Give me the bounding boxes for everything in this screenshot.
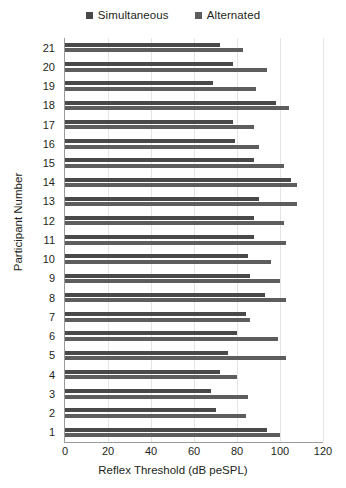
plot-area — [65, 38, 323, 442]
y-axis-tick-label: 4 — [0, 365, 61, 384]
legend-swatch-icon — [195, 12, 202, 19]
bar-row — [65, 96, 323, 115]
bar-alternated — [65, 68, 267, 72]
y-axis-tick-label: 20 — [0, 57, 61, 76]
y-axis-tick-label: 15 — [0, 153, 61, 172]
y-axis-tick-label: 16 — [0, 134, 61, 153]
bar-simultaneous — [65, 370, 220, 374]
legend-item-simultaneous: Simultaneous — [86, 9, 169, 21]
bar-row — [65, 38, 323, 57]
bar-row — [65, 423, 323, 442]
y-axis-tick-label: 13 — [0, 192, 61, 211]
y-axis-tick-label: 5 — [0, 346, 61, 365]
bar-row — [65, 134, 323, 153]
bar-alternated — [65, 202, 297, 206]
x-axis-tick-label: 60 — [188, 445, 200, 457]
bar-row — [65, 57, 323, 76]
y-axis-tick-label: 18 — [0, 96, 61, 115]
bar-simultaneous — [65, 120, 233, 124]
bar-row — [65, 230, 323, 249]
gridline — [323, 38, 324, 442]
legend-label-simultaneous: Simultaneous — [98, 9, 169, 21]
bar-row — [65, 211, 323, 230]
y-axis-tick-labels: 212019181716151413121110987654321 — [0, 38, 61, 442]
legend-item-alternated: Alternated — [195, 9, 260, 21]
bar-simultaneous — [65, 408, 216, 412]
bar-simultaneous — [65, 331, 237, 335]
bar-simultaneous — [65, 62, 233, 66]
bar-alternated — [65, 395, 248, 399]
legend-label-alternated: Alternated — [207, 9, 260, 21]
y-axis-tick-label: 1 — [0, 423, 61, 442]
bar-row — [65, 76, 323, 95]
bar-row — [65, 288, 323, 307]
bar-alternated — [65, 125, 254, 129]
x-axis-tick-label: 80 — [231, 445, 243, 457]
bar-simultaneous — [65, 139, 235, 143]
bar-alternated — [65, 221, 284, 225]
bar-alternated — [65, 337, 278, 341]
bar-alternated — [65, 414, 246, 418]
y-axis-tick-label: 12 — [0, 211, 61, 230]
bar-simultaneous — [65, 312, 246, 316]
bar-alternated — [65, 260, 271, 264]
y-axis-tick-label: 10 — [0, 250, 61, 269]
bar-row — [65, 269, 323, 288]
bar-row — [65, 384, 323, 403]
bar-alternated — [65, 164, 284, 168]
bar-alternated — [65, 145, 259, 149]
bar-alternated — [65, 106, 289, 110]
y-axis-tick-label: 11 — [0, 230, 61, 249]
y-axis-tick-label: 14 — [0, 173, 61, 192]
bar-row — [65, 346, 323, 365]
bar-alternated — [65, 375, 237, 379]
bar-alternated — [65, 87, 256, 91]
bar-alternated — [65, 298, 286, 302]
bar-alternated — [65, 433, 280, 437]
bar-simultaneous — [65, 428, 267, 432]
x-axis-tick-label: 20 — [102, 445, 114, 457]
x-axis-tick-labels: 020406080100120 — [65, 445, 323, 461]
x-axis-tick-label: 120 — [314, 445, 332, 457]
y-axis-title: Participant Number — [12, 122, 24, 322]
bar-simultaneous — [65, 274, 250, 278]
bar-alternated — [65, 183, 297, 187]
bar-chart: Simultaneous Alternated 2120191817161514… — [0, 0, 346, 488]
y-axis-tick-label: 19 — [0, 76, 61, 95]
bar-simultaneous — [65, 101, 276, 105]
y-axis-tick-label: 8 — [0, 288, 61, 307]
bar-row — [65, 307, 323, 326]
bar-simultaneous — [65, 158, 254, 162]
x-axis-tick-label: 40 — [145, 445, 157, 457]
bar-alternated — [65, 279, 280, 283]
y-axis-tick-label: 3 — [0, 384, 61, 403]
y-axis-tick-label: 6 — [0, 327, 61, 346]
x-axis-line — [64, 442, 323, 443]
bar-simultaneous — [65, 293, 265, 297]
legend-swatch-icon — [86, 12, 93, 19]
bar-simultaneous — [65, 216, 254, 220]
bar-alternated — [65, 356, 286, 360]
bar-row — [65, 250, 323, 269]
bar-row — [65, 115, 323, 134]
bar-rows — [65, 38, 323, 442]
bar-simultaneous — [65, 178, 291, 182]
bar-row — [65, 173, 323, 192]
bar-row — [65, 192, 323, 211]
y-axis-tick-label: 17 — [0, 115, 61, 134]
bar-row — [65, 365, 323, 384]
y-axis-tick-label: 7 — [0, 307, 61, 326]
bar-alternated — [65, 318, 250, 322]
y-axis-tick-label: 9 — [0, 269, 61, 288]
bar-simultaneous — [65, 351, 228, 355]
bar-simultaneous — [65, 81, 213, 85]
bar-simultaneous — [65, 43, 220, 47]
bar-row — [65, 403, 323, 422]
y-axis-tick-label: 21 — [0, 38, 61, 57]
bar-row — [65, 327, 323, 346]
x-axis-title: Reflex Threshold (dB peSPL) — [0, 464, 346, 476]
bar-alternated — [65, 48, 243, 52]
x-axis-tick-label: 0 — [62, 445, 68, 457]
x-axis-tick-label: 100 — [271, 445, 289, 457]
bar-alternated — [65, 241, 286, 245]
